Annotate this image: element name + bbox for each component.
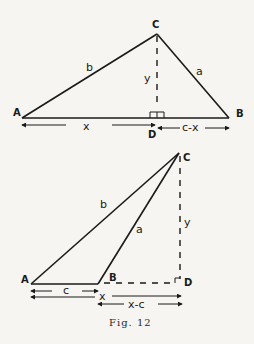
x-measure-label: x [83,120,90,133]
side-b-label: b [100,198,107,211]
side-b-line [22,34,157,118]
side-a-line [98,153,179,284]
altitude-y-label: y [144,72,151,85]
altitude-y-label: y [184,216,191,229]
vertex-c-label: C [183,152,190,163]
x-minus-c-label: x-c [128,298,145,311]
vertex-a-label: A [13,107,21,118]
vertex-c-label: C [152,19,159,30]
side-a-label: a [196,65,203,78]
top-triangle: C A B D b a y x c-x [13,19,244,140]
vertex-b-label: B [109,272,117,283]
c-measure-label: c [63,284,69,297]
vertex-b-label: B [236,108,244,119]
x-measure-label: x [99,290,106,303]
side-b-line [31,153,179,284]
vertex-a-label: A [21,274,29,285]
vertex-d-label: D [184,277,192,288]
side-a-label: a [136,223,143,236]
side-b-label: b [86,61,93,74]
figure-caption: Fig. 12 [109,317,152,328]
right-angle-mark [150,112,164,118]
bottom-triangle: C A B D b a y c x x-c [21,152,192,311]
figure-12-diagram: C A B D b a y x c-x C A B D b a y c x x-… [0,0,254,344]
c-minus-x-label: c-x [182,121,199,134]
right-angle-mark [175,278,180,283]
side-a-line [157,34,229,118]
vertex-d-label: D [148,129,156,140]
